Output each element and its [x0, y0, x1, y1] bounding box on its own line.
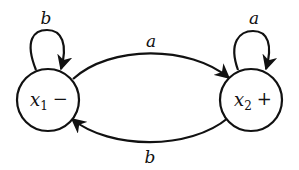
state-circle-x1: [17, 69, 79, 131]
start-marker: −: [53, 88, 68, 109]
loop-label-x2: a: [249, 8, 259, 28]
state-var-x1: x: [30, 89, 40, 110]
final-marker: +: [257, 88, 272, 109]
edge-arrow-a: [73, 53, 229, 79]
loop-arrow-x1: [31, 30, 64, 70]
loop-arrow-x2: [234, 31, 269, 70]
state-var-x2: x: [234, 89, 244, 110]
edge-x1-to-x2: a: [73, 31, 229, 79]
automaton-diagram: b a a b x1− x2+: [0, 0, 299, 170]
edge-arrow-b: [72, 118, 228, 142]
state-subscript-x2: 2: [244, 99, 252, 113]
self-loop-x1: b: [31, 8, 64, 70]
edge-label-a: a: [146, 31, 156, 51]
loop-label-x1: b: [41, 8, 52, 28]
edge-x2-to-x1: b: [72, 118, 228, 167]
self-loop-x2: a: [234, 8, 269, 70]
state-x2: x2+: [220, 69, 282, 131]
state-subscript-x1: 1: [40, 99, 48, 113]
edge-label-b: b: [145, 147, 156, 167]
state-x1: x1−: [17, 69, 79, 131]
